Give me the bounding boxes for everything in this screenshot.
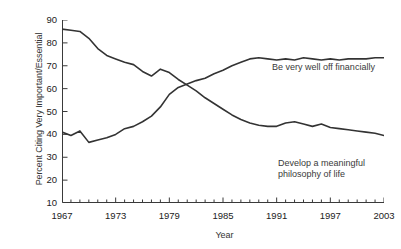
y-tick-label: 50 [31,107,57,117]
series-lines [62,29,384,142]
y-tick-label: 20 [31,175,57,185]
y-tick-label: 70 [31,61,57,71]
x-tick-label: 1985 [203,211,243,221]
y-tick-label: 30 [31,152,57,162]
y-tick-label: 80 [31,38,57,48]
x-axis-title: Year [0,230,401,240]
x-tick-label: 1979 [149,211,189,221]
x-tick-label: 1967 [42,211,82,221]
series-label-be-very-well-off-financially: Be very well off financially [272,62,375,73]
y-tick-label: 60 [31,84,57,94]
x-tick-label: 2003 [364,211,401,221]
series-line-0 [62,29,384,135]
plot-area: Be very well off financially Develop a m… [62,20,384,203]
chart-figure: Percent Citing Very Important/Essential … [0,0,401,249]
y-tick-label: 90 [31,15,57,25]
series-label-develop-a-meaningful-philosophy-of-life: Develop a meaningful philosophy of life [278,158,365,180]
x-axis-title-text: Year [215,230,233,240]
y-tick-label: 10 [31,198,57,208]
x-tick-label: 1973 [96,211,136,221]
x-tick-label: 1997 [310,211,350,221]
y-tick-label: 40 [31,129,57,139]
x-tick-label: 1991 [257,211,297,221]
